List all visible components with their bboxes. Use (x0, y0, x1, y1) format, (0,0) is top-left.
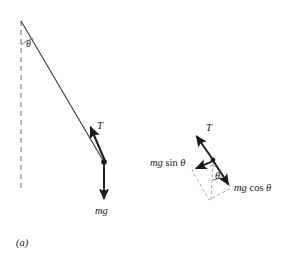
vertical-guide-dashed (211, 163, 213, 200)
weight-label: mg (95, 206, 108, 217)
mg-cos-theta-prefix: mg (234, 182, 247, 193)
resolution-tension-label: T (206, 123, 212, 134)
mg-cos-theta-theta: θ (266, 182, 271, 193)
mg-sin-theta-theta: θ (180, 157, 185, 168)
resolution-vertex-dot (211, 158, 216, 163)
physics-diagram-canvas (0, 0, 290, 263)
component-angle-label: θ (215, 171, 220, 181)
pendulum-group (21, 21, 107, 199)
pivot-angle-label: θ (26, 39, 31, 49)
figure-root: θ T mg T mg sin θ mg cos θ θ (a) (0, 0, 290, 263)
mg-sin-theta-label: mg sin θ (150, 158, 186, 169)
tension-vector-arrow (91, 127, 106, 161)
tension-label: T (97, 121, 103, 132)
resolution-tension-vector-arrow (197, 136, 214, 161)
mg-sin-theta-vector-arrow (196, 161, 213, 169)
mg-sin-theta-prefix: mg (150, 157, 163, 168)
force-resolution-group (192, 136, 231, 200)
mg-cos-theta-label: mg cos θ (234, 183, 271, 194)
mg-sin-theta-func: sin (165, 157, 177, 168)
mg-cos-theta-func: cos (249, 182, 263, 193)
figure-caption: (a) (16, 238, 28, 249)
pendulum-string (21, 21, 104, 162)
